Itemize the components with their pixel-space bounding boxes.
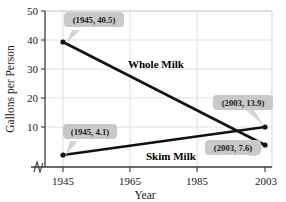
x-tick-label-1945: 1945 — [52, 175, 75, 187]
data-point-skim-1945 — [60, 152, 65, 157]
callout-label-skim-1945: (1945, 4.1) — [71, 127, 109, 137]
y-tick-label-50: 50 — [27, 5, 39, 17]
y-tick-label-40: 40 — [27, 34, 39, 46]
callout-label-skim-2003: (2003, 13.9) — [222, 98, 265, 108]
series-label-whole-milk: Whole Milk — [128, 58, 185, 70]
callout-label-whole-2003: (2003, 7.6) — [214, 143, 252, 153]
data-point-whole-1945 — [60, 39, 65, 44]
chart-canvas: 50 40 30 20 10 1945 1965 1985 2003 Year … — [0, 0, 286, 202]
y-axis-title: Gallons per Person — [4, 45, 17, 133]
series-label-skim-milk: Skim Milk — [146, 150, 197, 162]
x-axis-title: Year — [134, 189, 155, 201]
axis-break-icon — [34, 162, 43, 172]
callout-whole-2003: (2003, 7.6) — [205, 140, 264, 156]
x-tick-label-1985: 1985 — [186, 175, 209, 187]
y-tick-label-10: 10 — [27, 121, 39, 133]
x-tick-label-2003: 2003 — [255, 175, 278, 187]
callout-label-whole-1945: (1945, 40.5) — [73, 15, 116, 25]
x-tick-label-1965: 1965 — [119, 175, 142, 187]
x-tick-marks — [63, 167, 265, 172]
y-tick-label-30: 30 — [27, 63, 39, 75]
line-chart: 50 40 30 20 10 1945 1965 1985 2003 Year … — [0, 0, 286, 202]
y-tick-label-20: 20 — [27, 92, 39, 104]
